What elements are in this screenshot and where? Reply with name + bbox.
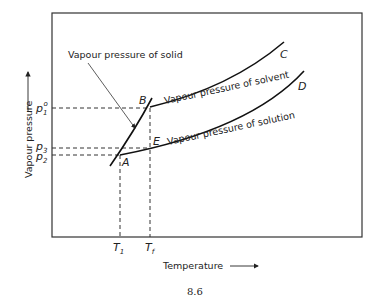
tick-tf: Tf xyxy=(145,241,156,256)
x-axis-label: Temperature xyxy=(162,260,223,271)
solvent-label: Vapour pressure of solvent xyxy=(163,69,290,106)
point-c: C xyxy=(280,48,288,61)
tick-t1: T1 xyxy=(113,241,124,256)
solution-label: Vapour pressure of solution xyxy=(166,109,296,147)
point-e: E xyxy=(153,135,160,148)
figure-caption: 8.6 xyxy=(187,286,203,297)
plot-frame xyxy=(52,13,362,237)
point-d: D xyxy=(298,80,306,93)
point-a: A xyxy=(121,156,130,169)
y-axis-label: Vapour pressure xyxy=(23,100,34,178)
solid-annotation: Vapour pressure of solid xyxy=(68,49,183,60)
annotation-arrow xyxy=(88,63,135,128)
tick-p1: p1o xyxy=(35,100,48,117)
vapour-pressure-diagram: Vapour pressure of solid Vapour pressure… xyxy=(0,0,380,305)
point-b: B xyxy=(139,94,147,107)
